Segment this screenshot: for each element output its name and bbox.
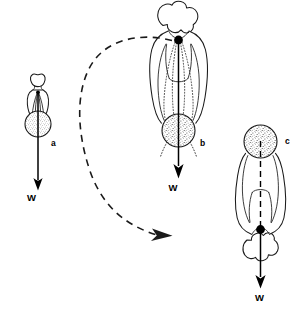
panel-b-weight-arrowhead [173,164,183,179]
panel-a-head [31,74,45,87]
panel-b: W b [150,1,207,193]
panel-b-guide-center-left [172,38,177,123]
panel-b-guide-center-right [179,38,184,123]
panel-b-weight-label: W [169,182,178,193]
panel-a-label: a [51,138,56,148]
panel-b-label: b [200,138,205,148]
biomechanics-diagram: W a [0,0,300,309]
panel-c-weight-label: W [255,292,264,303]
panel-c-weight-arrowhead [255,275,265,289]
panel-c-torso-inner-right [269,192,272,222]
panel-c: W c [236,125,290,303]
panel-b-head [158,1,198,33]
panel-c-torso-inner-left [249,192,252,222]
figure-root: W a [0,0,300,309]
panel-a-weight-label: W [27,192,36,203]
panel-c-label: c [285,136,290,146]
panel-a: W a [25,74,56,203]
